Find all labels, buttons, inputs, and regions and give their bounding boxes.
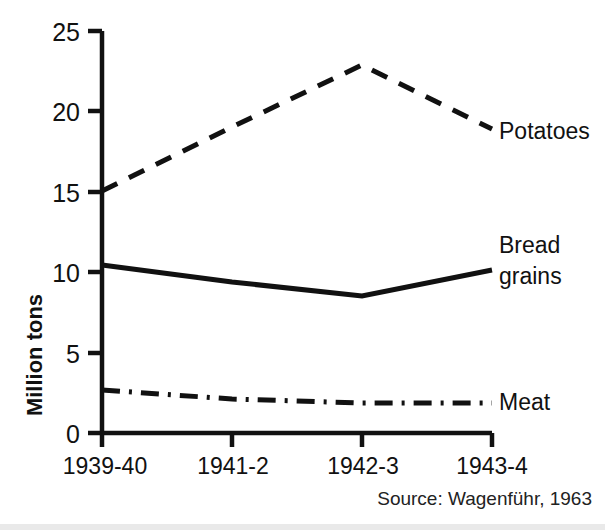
x-tick-label-1939-40: 1939-40 — [63, 453, 147, 479]
series-label-potatoes: Potatoes — [499, 118, 590, 144]
y-tick-label-10: 10 — [52, 259, 80, 287]
series-label-meat: Meat — [499, 389, 551, 415]
x-tick-labels: 1939-40 1941-2 1942-3 1943-4 — [63, 453, 528, 479]
y-tick-label-15: 15 — [52, 179, 80, 207]
x-tick-label-1943-4: 1943-4 — [456, 453, 528, 479]
series-line-bread-grains — [102, 265, 492, 296]
series-label-bread-grains-line2: grains — [499, 263, 562, 289]
page-edge-strip — [0, 524, 605, 530]
series-label-bread-grains-line1: Bread — [499, 232, 560, 258]
axis-group — [88, 31, 492, 447]
y-tick-label-20: 20 — [52, 98, 80, 126]
y-tick-label-5: 5 — [66, 340, 80, 368]
y-tick-labels: 25 20 15 10 5 0 — [52, 18, 80, 448]
chart-figure: 25 20 15 10 5 0 1939-40 1941-2 1942-3 19… — [0, 0, 605, 530]
y-tick-label-25: 25 — [52, 18, 80, 46]
x-tick-label-1942-3: 1942-3 — [327, 453, 399, 479]
y-tick-label-0: 0 — [66, 420, 80, 448]
source-note: Source: Wagenführ, 1963 — [377, 488, 592, 509]
x-tick-label-1941-2: 1941-2 — [197, 453, 269, 479]
series-line-meat — [102, 390, 492, 403]
series-line-potatoes — [102, 65, 492, 191]
y-axis-title: Million tons — [22, 294, 47, 416]
line-chart: 25 20 15 10 5 0 1939-40 1941-2 1942-3 19… — [0, 0, 605, 530]
